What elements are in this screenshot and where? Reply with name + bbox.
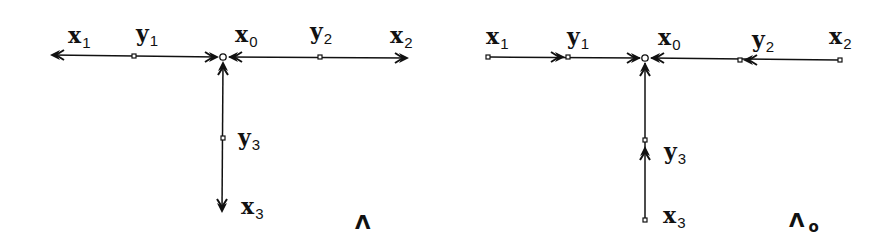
node-x0 (220, 54, 226, 60)
label-left-x1: x1 (68, 24, 90, 50)
label-left-x2: x2 (390, 24, 412, 50)
node-x3 (643, 218, 647, 222)
label-right-x1: x1 (486, 25, 508, 51)
node-y3 (643, 138, 647, 142)
label-right-x2: x2 (829, 25, 851, 51)
left-graph (50, 50, 409, 213)
node-y1 (566, 55, 570, 59)
node-x1 (486, 55, 490, 59)
label-left-y2: y2 (310, 20, 332, 46)
node-y1 (132, 54, 136, 58)
label-left-y3: y3 (238, 126, 260, 152)
caption-right: Λo (789, 210, 819, 235)
label-left-x0: x0 (235, 23, 257, 49)
node-x0 (642, 55, 648, 61)
label-right-x3: x3 (663, 204, 685, 230)
label-left-y1: y1 (136, 22, 158, 48)
node-y3 (221, 136, 225, 140)
label-left-x3: x3 (241, 195, 263, 221)
arrow-x2-to-y2-icon (743, 55, 757, 65)
label-right-y2: y2 (752, 28, 774, 54)
right-graph (486, 52, 842, 222)
label-right-x0: x0 (658, 26, 680, 52)
node-y2 (318, 55, 322, 59)
node-x2 (838, 58, 842, 62)
caption-left: Λ (355, 212, 374, 237)
diagram-canvas: x1 y1 x0 y2 x2 y3 x3 Λ x1 y1 x0 y2 x2 y3… (0, 0, 896, 247)
node-y2 (738, 58, 742, 62)
label-right-y3: y3 (664, 140, 686, 166)
label-right-y1: y1 (567, 25, 589, 51)
